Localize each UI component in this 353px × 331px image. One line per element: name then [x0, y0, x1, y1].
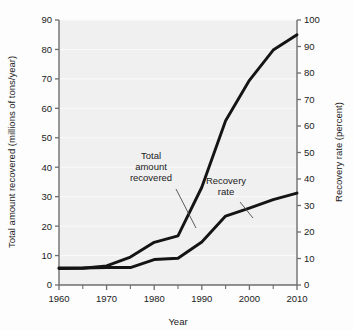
y-axis-left-tick-label: 60 [41, 103, 52, 114]
annotation-rate-line-2: rate [218, 186, 234, 197]
y-axis-right-title: Recovery rate (percent) [333, 102, 344, 202]
y-axis-left-tick-label: 0 [47, 279, 52, 290]
annotation-total-line-3: recovered [130, 172, 172, 183]
chart-figure: 0102030405060708090 01020304050607080901… [0, 0, 353, 331]
y-axis-right-tick-label: 40 [304, 173, 315, 184]
y-axis-left-tick-label: 90 [41, 14, 52, 25]
y-axis-right-tick-label: 100 [304, 14, 320, 25]
y-axis-right-tick-label: 0 [304, 279, 309, 290]
y-axis-left-tick-label: 50 [41, 132, 52, 143]
y-axis-right-tick-label: 80 [304, 67, 315, 78]
y-axis-right-tick-label: 90 [304, 41, 315, 52]
x-axis-tick-label: 2010 [286, 293, 307, 304]
y-axis-right-tick-label: 30 [304, 200, 315, 211]
y-axis-left-tick-label: 10 [41, 250, 52, 261]
y-axis-right-tick-label: 20 [304, 226, 315, 237]
y-axis-right-tick-label: 70 [304, 94, 315, 105]
x-axis-tick-label: 1990 [191, 293, 212, 304]
annotation-total-line-2: amount [135, 161, 167, 172]
x-axis-title: Year [168, 316, 187, 327]
y-axis-left-tick-labels: 0102030405060708090 [41, 14, 52, 290]
y-axis-left-tick-label: 30 [41, 191, 52, 202]
y-axis-left-tick-label: 20 [41, 221, 52, 232]
annotation-rate-line-1: Recovery [206, 175, 246, 186]
y-axis-right-tick-label: 60 [304, 120, 315, 131]
x-axis-tick-label: 1980 [144, 293, 165, 304]
annotation-total-line-1: Total [141, 150, 161, 161]
x-axis-tick-label: 1960 [48, 293, 69, 304]
y-axis-right-tick-labels: 0102030405060708090100 [304, 14, 320, 290]
y-axis-left-tick-label: 70 [41, 73, 52, 84]
plot-area-background [59, 20, 297, 285]
y-axis-right-tick-label: 10 [304, 253, 315, 264]
x-axis-tick-label: 1970 [96, 293, 117, 304]
x-axis-ticks [59, 285, 297, 290]
y-axis-left-tick-label: 80 [41, 44, 52, 55]
x-axis-tick-label: 2000 [239, 293, 260, 304]
x-axis-tick-labels: 196019701980199020002010 [48, 293, 307, 304]
y-axis-right-tick-label: 50 [304, 147, 315, 158]
y-axis-left-tick-label: 40 [41, 162, 52, 173]
line-chart: 0102030405060708090 01020304050607080901… [0, 0, 353, 331]
y-axis-left-title: Total amount recovered (millions of tons… [6, 56, 17, 248]
